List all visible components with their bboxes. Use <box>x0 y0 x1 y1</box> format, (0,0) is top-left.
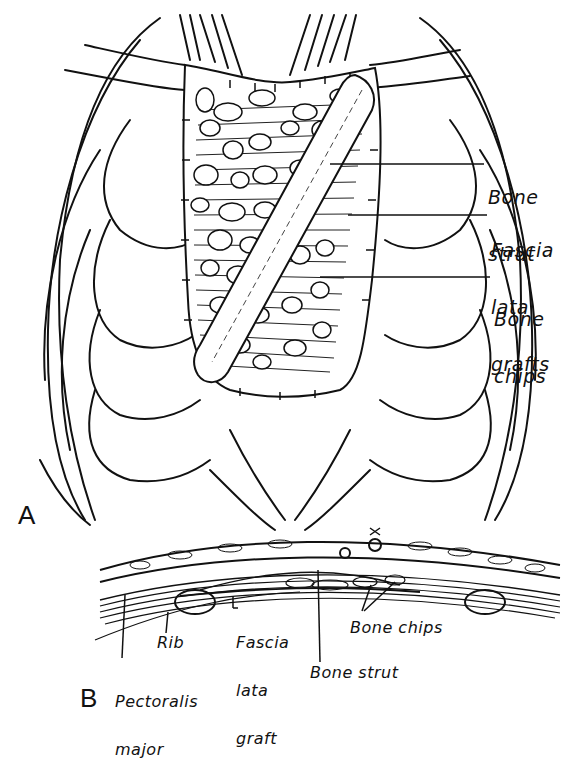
panel-letter-b: B <box>80 683 97 714</box>
label-fascia-lata-graft: Fascia lata graft <box>236 603 289 762</box>
label-line: Fascia <box>236 635 289 651</box>
panel-letter-a: A <box>18 500 35 531</box>
label-line: lata <box>236 683 289 699</box>
label-bone-strut-b: Bone strut <box>310 665 398 681</box>
label-bone-chips-a: Bone chips <box>494 272 546 405</box>
label-rib: Rib <box>157 635 184 651</box>
label-line: graft <box>236 731 289 747</box>
label-pectoralis-major: Pectoralis major <box>115 662 198 762</box>
label-line: Bone <box>494 310 546 329</box>
label-line: major <box>115 742 198 758</box>
label-line: chips <box>494 367 546 386</box>
label-line: Pectoralis <box>115 694 198 710</box>
label-line: Fascia <box>491 241 554 260</box>
label-bone-chips-b: Bone chips <box>350 620 443 636</box>
